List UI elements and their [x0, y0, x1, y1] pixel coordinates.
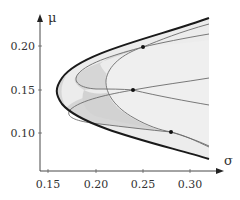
y-tick-label: 0.20 [11, 40, 36, 53]
x-tick-label: 0.25 [131, 178, 156, 191]
y-tick-label: 0.10 [11, 127, 36, 140]
asset-point-1 [141, 45, 145, 49]
y-ticks: 0.20 0.15 0.10 [11, 40, 43, 140]
x-tick-label: 0.15 [36, 178, 61, 191]
mean-variance-chart: μ σ 0.15 0.20 0.25 0.30 0.20 0.15 0.10 [0, 0, 240, 200]
asset-point-2 [131, 88, 135, 92]
x-axis-arrow-icon [216, 168, 224, 174]
y-tick-label: 0.15 [11, 84, 36, 97]
y-axis-arrow-icon [37, 14, 43, 22]
asset-point-3 [169, 130, 173, 134]
y-axis-label: μ [48, 10, 56, 25]
x-tick-label: 0.30 [178, 178, 203, 191]
x-axis-label: σ [224, 153, 233, 168]
x-tick-label: 0.20 [84, 178, 109, 191]
chart-svg: μ σ 0.15 0.20 0.25 0.30 0.20 0.15 0.10 [0, 0, 240, 200]
x-ticks: 0.15 0.20 0.25 0.30 [36, 169, 203, 191]
